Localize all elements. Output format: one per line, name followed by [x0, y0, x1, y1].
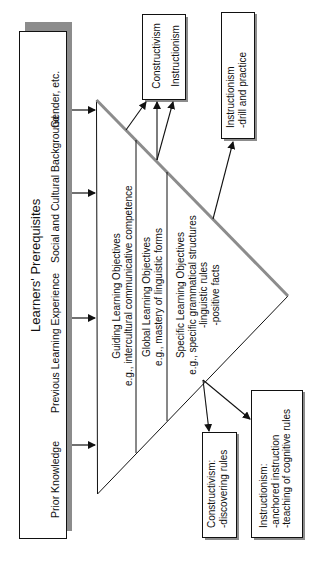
level-guiding: Guiding Learning Objectives e.g., interc… — [111, 206, 134, 386]
outcome-drill-title: Instructionism — [225, 14, 237, 128]
outcome-guiding-global: Constructivism Instructionism — [147, 18, 185, 94]
outcome-specific-instructionism-detail-1: -anchored instruction — [270, 392, 282, 528]
prerequisite-previous-experience: Previous Learning Experience — [49, 273, 61, 413]
level-guiding-example: e.g., intercultural communicative compet… — [123, 206, 135, 386]
level-specific-detail-1: -linguistic rules — [198, 210, 210, 380]
outcome-constructivism: Constructivism — [147, 18, 166, 94]
level-global-title: Global Learning Objectives — [141, 222, 153, 372]
outcome-drill: Instructionism -drill and practice — [225, 14, 248, 132]
prerequisite-social-cultural: Social and Cultural Background — [49, 116, 61, 263]
outcome-specific-instructionism-detail-2: -teaching of cognitive rules — [281, 392, 293, 528]
level-global: Global Learning Objectives e.g., mastery… — [141, 222, 164, 372]
outcome-specific-constructivism: Constructivism: -discovering rules — [206, 432, 229, 532]
outcome-instructionism: Instructionism — [166, 18, 185, 94]
level-specific-detail-2: -positive facts — [210, 210, 222, 380]
outcome-specific-instructionism: Instructionism: -anchored instruction -t… — [258, 392, 293, 532]
prerequisite-prior-knowledge: Prior Knowledge — [49, 441, 61, 518]
level-guiding-title: Guiding Learning Objectives — [111, 206, 123, 386]
prerequisite-arrows — [72, 110, 95, 445]
outcome-specific-constructivism-detail: -discovering rules — [218, 432, 230, 528]
level-global-example: e.g., mastery of linguistic forms — [153, 222, 165, 372]
prerequisites-title: Learners' Prerequisites — [29, 199, 44, 332]
outcome-specific-constructivism-title: Constructivism: — [206, 432, 218, 528]
outcome-drill-detail: -drill and practice — [237, 14, 249, 128]
prerequisite-gender: Gender, etc. — [49, 71, 61, 128]
level-specific-title: Specific Learning Objectives — [175, 210, 187, 380]
outcome-specific-instructionism-title: Instructionism: — [258, 392, 270, 528]
level-specific: Specific Learning Objectives e.g., speci… — [175, 210, 221, 380]
level-specific-example: e.g., specific grammatical structures — [187, 210, 199, 380]
